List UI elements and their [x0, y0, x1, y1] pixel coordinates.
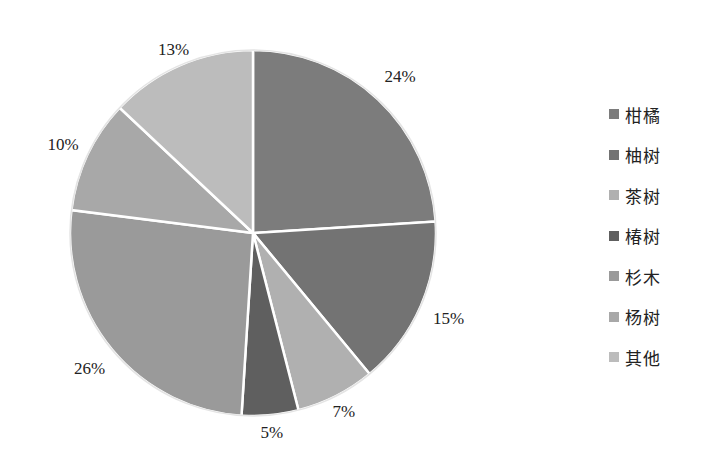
- legend-swatch: [609, 352, 619, 362]
- legend-item-citrus: 柑橘: [609, 94, 709, 135]
- legend-swatch: [609, 109, 619, 119]
- pie-slice: [70, 210, 253, 416]
- pie-percent-label: 24%: [385, 67, 416, 86]
- legend-label: 杨树: [625, 304, 661, 329]
- legend-swatch: [609, 150, 619, 160]
- legend-item-toona: 椿树: [609, 216, 709, 257]
- legend-label: 椿树: [625, 223, 661, 248]
- pie-percent-label: 13%: [158, 40, 189, 59]
- legend-swatch: [609, 190, 619, 200]
- legend-label: 其他: [625, 345, 661, 370]
- legend-item-pomelo: 柚树: [609, 135, 709, 176]
- legend-item-tea: 茶树: [609, 175, 709, 216]
- pie-percent-label: 7%: [332, 402, 355, 421]
- legend-swatch: [609, 312, 619, 322]
- pie-percent-label: 5%: [260, 423, 283, 442]
- legend-label: 柑橘: [625, 102, 661, 127]
- legend-item-other: 其他: [609, 337, 709, 378]
- legend-item-poplar: 杨树: [609, 297, 709, 338]
- pie-slices: [70, 50, 436, 416]
- legend-label: 杉木: [625, 264, 661, 289]
- pie-chart: 24%15%7%5%26%10%13%: [0, 0, 711, 475]
- legend-swatch: [609, 271, 619, 281]
- legend-swatch: [609, 231, 619, 241]
- legend-label: 茶树: [625, 183, 661, 208]
- pie-percent-label: 26%: [74, 359, 105, 378]
- pie-percent-label: 10%: [47, 135, 78, 154]
- legend: 柑橘 柚树 茶树 椿树 杉木 杨树 其他: [609, 94, 709, 378]
- legend-item-fir: 杉木: [609, 256, 709, 297]
- legend-label: 柚树: [625, 142, 661, 167]
- pie-percent-label: 15%: [433, 309, 464, 328]
